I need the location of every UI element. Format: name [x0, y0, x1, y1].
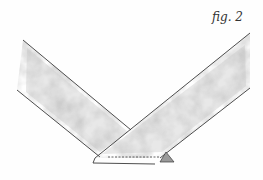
fabric-strips-illustration [0, 0, 263, 180]
figure-canvas: fig. 2 [0, 0, 263, 180]
folded-bottom-edge [93, 158, 155, 164]
right-fabric-strip [90, 25, 263, 165]
